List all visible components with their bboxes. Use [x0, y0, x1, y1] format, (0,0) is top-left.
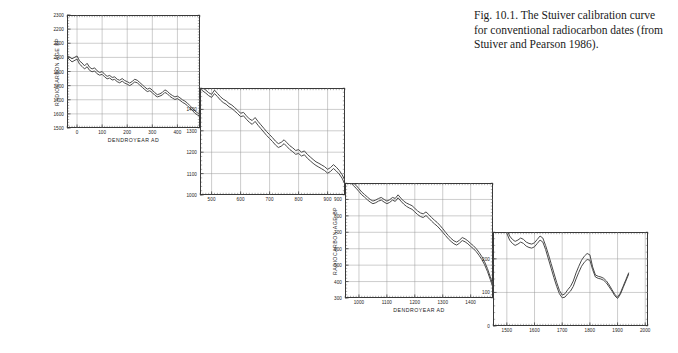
x-tick-label: 1100 — [382, 300, 392, 305]
y-tick-label: 800 — [334, 213, 342, 218]
y-tick-label: 1600 — [53, 111, 64, 116]
y-tick-label: 1900 — [53, 69, 64, 74]
x-axis-title-1: DENDROYEAR AD — [108, 137, 159, 143]
y-tick-label: 1200 — [186, 150, 197, 155]
x-axis-title-3: DENDROYEAR AD — [393, 307, 444, 313]
y-tick-label: 1100 — [187, 171, 197, 176]
x-tick-label: 2000 — [640, 328, 651, 333]
chart-panel-3: RADIOCARBON AGE BP DENDROYEAR AD 3004005… — [345, 183, 493, 298]
y-tick-label: 300 — [334, 296, 342, 301]
y-tick-label: 1800 — [53, 83, 64, 88]
x-tick-label: 1800 — [585, 328, 596, 333]
chart-panel-1: RADIOCARBON AGE BP DENDROYEAR AD 1500160… — [67, 15, 200, 128]
x-tick-label: 800 — [295, 197, 303, 202]
chart-panel-4: 0100200150016001700180019002000 — [493, 232, 648, 326]
chart-panel-2: 10001100120013001400500600700800900 — [200, 88, 345, 195]
figure-root: Fig. 10.1. The Stuiver calibration curve… — [0, 0, 678, 353]
x-tick-label: 700 — [266, 197, 274, 202]
x-tick-label: 1000 — [354, 300, 365, 305]
x-tick-label: 1600 — [529, 328, 540, 333]
y-tick-label: 900 — [334, 197, 342, 202]
y-tick-label: 1300 — [186, 128, 197, 133]
plot-canvas-2 — [200, 88, 345, 195]
x-tick-label: 1300 — [437, 300, 448, 305]
y-tick-label: 1700 — [53, 97, 64, 102]
y-tick-label: 1500 — [53, 126, 64, 131]
y-tick-label: 700 — [334, 230, 342, 235]
y-tick-label: 0 — [487, 324, 490, 329]
x-tick-label: 300 — [148, 130, 156, 135]
x-tick-label: 1400 — [465, 300, 476, 305]
x-tick-label: 600 — [237, 197, 245, 202]
x-tick-label: 1500 — [502, 328, 513, 333]
x-tick-label: 0 — [76, 130, 79, 135]
y-tick-label: 400 — [334, 279, 342, 284]
x-tick-label: 100 — [98, 130, 106, 135]
y-tick-label: 500 — [334, 263, 342, 268]
y-tick-label: 600 — [334, 246, 342, 251]
x-tick-label: 400 — [173, 130, 181, 135]
figure-caption: Fig. 10.1. The Stuiver calibration curve… — [474, 8, 670, 52]
y-tick-label: 100 — [482, 290, 490, 295]
x-tick-label: 500 — [208, 197, 216, 202]
x-tick-label: 1900 — [612, 328, 623, 333]
y-tick-label: 2300 — [53, 13, 64, 18]
plot-canvas-1 — [67, 15, 200, 128]
y-tick-label: 1000 — [186, 193, 197, 198]
plot-canvas-4 — [493, 232, 648, 326]
x-tick-label: 1700 — [557, 328, 568, 333]
x-tick-label: 900 — [324, 197, 332, 202]
x-tick-label: 1200 — [409, 300, 420, 305]
y-tick-label: 200 — [482, 256, 490, 261]
y-tick-label: 2000 — [53, 55, 64, 60]
x-tick-label: 200 — [123, 130, 131, 135]
y-tick-label: 2200 — [53, 27, 64, 32]
y-tick-label: 1400 — [186, 107, 197, 112]
y-tick-label: 2100 — [53, 41, 64, 46]
plot-canvas-3 — [345, 183, 493, 298]
